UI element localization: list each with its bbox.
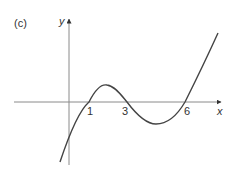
root-label-6: 6 [184, 105, 190, 117]
cubic-curve [60, 33, 218, 162]
root-label-1: 1 [87, 105, 93, 117]
x-axis-label: x [216, 105, 223, 117]
y-axis-label: y [58, 15, 66, 27]
graph: (c) y x 1 3 6 [0, 0, 238, 171]
panel-label: (c) [14, 17, 27, 29]
root-label-3: 3 [122, 105, 128, 117]
